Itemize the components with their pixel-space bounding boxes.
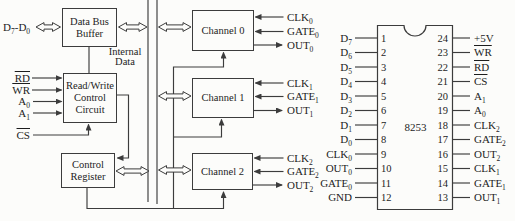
pin-number-8: 8 xyxy=(381,133,397,146)
block-label: Read/Write Control Circuit xyxy=(65,80,115,116)
block-label: Channel 1 xyxy=(202,92,245,104)
bus-arrow xyxy=(159,92,192,101)
pin-number-12: 12 xyxy=(381,191,397,204)
block-read-write-control: Read/Write Control Circuit xyxy=(63,73,117,123)
label-text: WR xyxy=(474,46,492,58)
pin-number-24: 24 xyxy=(427,32,448,45)
pin-label-9: CLK0 xyxy=(298,148,352,161)
label-text: CLK xyxy=(287,11,309,23)
cr-to-ch1-line xyxy=(174,120,222,138)
block-control-register: Control Register xyxy=(61,153,115,188)
pin-number-17: 17 xyxy=(427,133,448,146)
pin-label-21: CS xyxy=(474,75,514,88)
pin-label-11: GATE0 xyxy=(298,177,352,190)
label-text: GND xyxy=(328,191,352,203)
pin-label-15: CLK1 xyxy=(474,162,514,175)
label-text: CLK xyxy=(474,162,496,174)
label-text: +5V xyxy=(474,32,494,44)
rw-to-cr-line xyxy=(117,95,129,158)
label-text: CS xyxy=(17,129,30,141)
label-subscript: 1 xyxy=(497,197,501,206)
label-text: D xyxy=(3,21,11,33)
pin-number-2: 2 xyxy=(381,46,397,59)
pin-number-14: 14 xyxy=(427,177,448,190)
label-text: OUT xyxy=(474,191,497,203)
pin-number-18: 18 xyxy=(427,119,448,132)
bus-arrow xyxy=(159,166,192,175)
label-text: A xyxy=(474,90,482,102)
pin-label-5: D3 xyxy=(298,90,352,103)
pin-number-19: 19 xyxy=(427,104,448,117)
pin-number-20: 20 xyxy=(427,90,448,103)
label-subscript: 0 xyxy=(26,27,30,36)
pin-label-8: D0 xyxy=(298,133,352,146)
pin-label-16: OUT2 xyxy=(474,148,514,161)
pin-label-22: RD xyxy=(474,61,514,74)
pin-label-12: GND xyxy=(298,191,352,204)
pin-number-4: 4 xyxy=(381,75,397,88)
pin-number-22: 22 xyxy=(427,61,448,74)
signal-label-cs: CS xyxy=(2,129,30,142)
pin-number-15: 15 xyxy=(427,162,448,175)
pin-label-14: GATE1 xyxy=(474,177,514,190)
signal-label-a1: A1 xyxy=(2,107,30,120)
pin-label-7: D1 xyxy=(298,119,352,132)
label-text: OUT xyxy=(474,148,497,160)
label-text: OUT xyxy=(326,162,349,174)
pin-label-4: D4 xyxy=(298,75,352,88)
block-label: Data Bus Buffer xyxy=(64,16,115,40)
pin-number-23: 23 xyxy=(427,46,448,59)
block-label: Channel 0 xyxy=(202,25,245,37)
pin-label-20: A1 xyxy=(474,90,514,103)
internal-data-label: Internal Data xyxy=(104,47,146,66)
signal-label-clk0: CLK0 xyxy=(287,11,333,24)
pin-label-24: +5V xyxy=(474,32,514,45)
label-text: WR xyxy=(12,84,30,96)
cs-line xyxy=(33,125,89,136)
pin-number-16: 16 xyxy=(427,148,448,161)
label-text: RD xyxy=(474,61,489,73)
pin-number-1: 1 xyxy=(381,32,397,45)
pin-label-1: D7 xyxy=(298,32,352,45)
pin-label-10: OUT0 xyxy=(298,162,352,175)
cr-to-ch2-line xyxy=(87,188,224,209)
label-text: GATE xyxy=(474,177,502,189)
pin-number-10: 10 xyxy=(381,162,397,175)
label-text: CLK xyxy=(326,148,348,160)
label-text: CS xyxy=(474,75,487,87)
bus-arrow xyxy=(159,23,192,32)
pin-label-2: D6 xyxy=(298,46,352,59)
8253-diagram-figure: Data Bus Buffer Read/Write Control Circu… xyxy=(0,0,515,221)
label-text: GATE xyxy=(474,133,502,145)
pin-label-23: WR xyxy=(474,46,514,59)
pin-number-6: 6 xyxy=(381,104,397,117)
block-label: Control Register xyxy=(63,159,113,183)
block-data-bus-buffer: Data Bus Buffer xyxy=(62,8,117,47)
pin-label-18: CLK2 xyxy=(474,119,514,132)
pin-label-6: D2 xyxy=(298,104,352,117)
pin-label-19: A0 xyxy=(474,104,514,117)
bus-arrow xyxy=(36,23,61,32)
block-channel-2: Channel 2 xyxy=(192,153,253,190)
pin-number-7: 7 xyxy=(381,119,397,132)
pin-number-13: 13 xyxy=(427,191,448,204)
block-label: Channel 2 xyxy=(201,166,244,178)
bus-arrow xyxy=(119,23,148,32)
label-text: GATE xyxy=(320,177,348,189)
pin-number-9: 9 xyxy=(381,148,397,161)
pin-number-11: 11 xyxy=(381,177,397,190)
pin-label-13: OUT1 xyxy=(474,191,514,204)
label-text: RD xyxy=(15,72,30,84)
signal-label-d7d0: D7-D0 xyxy=(3,21,30,34)
pin-number-21: 21 xyxy=(427,75,448,88)
pin-number-5: 5 xyxy=(381,90,397,103)
label-subscript: 1 xyxy=(26,113,30,122)
pin-label-3: D5 xyxy=(298,61,352,74)
label-text: CLK xyxy=(474,119,496,131)
bus-arrow xyxy=(116,167,149,176)
pin-number-3: 3 xyxy=(381,61,397,74)
block-channel-1: Channel 1 xyxy=(192,78,254,118)
pin-label-17: GATE2 xyxy=(474,133,514,146)
block-channel-0: Channel 0 xyxy=(192,10,254,51)
label-text: A xyxy=(474,104,482,116)
